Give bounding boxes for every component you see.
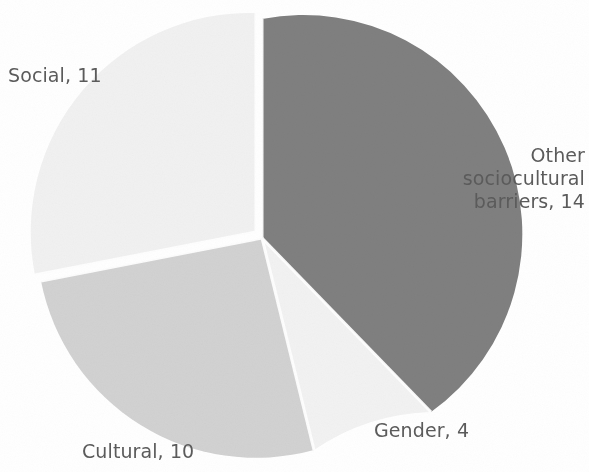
pie-chart: Social, 11 Other sociocultural barriers,… bbox=[0, 0, 589, 472]
pie-label-gender: Gender, 4 bbox=[374, 419, 469, 442]
pie-label-social: Social, 11 bbox=[8, 64, 102, 87]
pie-label-cultural: Cultural, 10 bbox=[82, 440, 194, 463]
pie-label-other-sociocultural-barriers: Other sociocultural barriers, 14 bbox=[463, 144, 585, 213]
scan-grain-texture bbox=[35, 0, 485, 455]
